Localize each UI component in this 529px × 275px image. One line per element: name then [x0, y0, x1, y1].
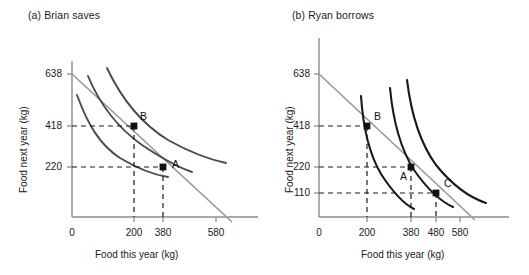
panel-a-budget-line [72, 74, 232, 222]
panel-b-point-a-label: A [400, 170, 407, 182]
panel-b-xtick-label-200: 200 [351, 227, 383, 238]
panel-b-ytick-label-418: 418 [268, 120, 310, 131]
panel-a-indifference-curve-1 [77, 95, 168, 177]
panel-a-ytick-label-638: 638 [20, 68, 62, 79]
panel-b-indifference-curve-1 [361, 96, 414, 209]
panel-a-xtick-label-380: 380 [147, 227, 179, 238]
panel-a-point-b-label: B [140, 110, 147, 122]
panel-a-point-b-marker [131, 123, 138, 130]
figure-container: (a) Brian saves Food next year (kg) Food… [0, 0, 529, 275]
panel-b-point-b-label: B [374, 110, 381, 122]
panel-a-ytick-label-220: 220 [20, 161, 62, 172]
panel-ryan-borrows: (b) Ryan borrows Food next year (kg) Foo… [264, 0, 529, 275]
panel-b-xtick-label-580: 580 [444, 227, 476, 238]
panel-b-indifference-curve-2 [390, 88, 453, 207]
panel-a-ytick-label-418: 418 [20, 120, 62, 131]
panel-a-xtick-label-580: 580 [200, 227, 232, 238]
panel-brian-saves: (a) Brian saves Food next year (kg) Food… [0, 0, 265, 275]
panel-a-indifference-curve-3 [107, 68, 226, 163]
panel-b-point-c-label: C [444, 177, 452, 189]
panel-b-ytick-label-220: 220 [268, 161, 310, 172]
panel-b-point-a-marker [408, 164, 415, 171]
panel-a-point-a-label: A [172, 158, 179, 170]
panel-b-point-c-marker [433, 190, 440, 197]
panel-b-ytick-label-638: 638 [268, 68, 310, 79]
panel-a-xtick-label-0: 0 [56, 227, 88, 238]
panel-b-budget-line [319, 74, 475, 220]
panel-b-point-b-marker [364, 123, 371, 130]
panel-a-point-a-marker [160, 164, 167, 171]
panel-b-xtick-label-0: 0 [303, 227, 335, 238]
panel-a-xtick-label-200: 200 [118, 227, 150, 238]
panel-b-ytick-label-110: 110 [268, 187, 310, 198]
